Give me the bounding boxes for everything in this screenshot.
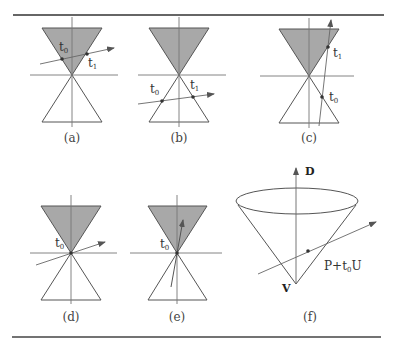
label-t1: t1 [190, 78, 199, 93]
panel-e: t0 (e) [130, 195, 222, 324]
intersection-point-t1 [191, 95, 195, 99]
label-t1: t1 [333, 46, 342, 61]
caption-f: (f) [303, 310, 317, 324]
caption-c: (c) [301, 131, 317, 145]
label-t0: t0 [160, 237, 169, 252]
caption-b: (b) [170, 131, 187, 145]
cone-rim [236, 188, 358, 214]
label-D: D [305, 165, 315, 178]
panel-c: t1 t0 (c) [260, 18, 354, 145]
lower-cone [148, 253, 207, 300]
caption-a: (a) [64, 131, 81, 145]
panel-f: D V P+t0U (f) [236, 165, 376, 324]
intersection-point-t0 [60, 57, 64, 61]
panel-d: t0 (d) [30, 195, 117, 324]
caption-e: (e) [169, 310, 185, 324]
label-ray: P+t0U [324, 259, 362, 274]
caption-d: (d) [62, 310, 79, 324]
intersection-point-t0 [160, 99, 164, 103]
intersection-point-t1 [326, 45, 330, 49]
label-t0: t0 [150, 82, 159, 97]
vertex-point-t0 [175, 251, 179, 255]
cone-side-left [238, 205, 296, 284]
intersection-point-t0 [320, 95, 324, 99]
label-t0: t0 [329, 90, 338, 105]
cone-intersection-figure: t0 t1 (a) t0 t1 (b) t1 t0 (c) t0 [0, 0, 394, 343]
point-P [306, 249, 310, 253]
upper-cone-shaded [148, 206, 207, 253]
panel-a: t0 t1 (a) [30, 17, 118, 145]
panel-b: t0 t1 (b) [138, 17, 226, 145]
label-V: V [281, 282, 291, 295]
vertex-point-t0 [69, 251, 73, 255]
label-t1: t1 [88, 56, 97, 71]
